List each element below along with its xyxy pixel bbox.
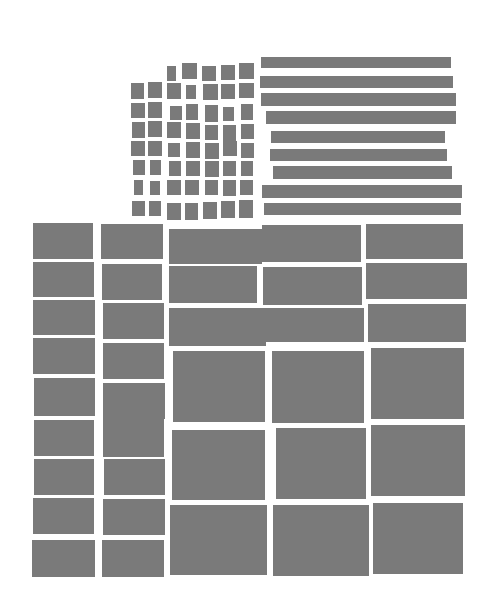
horizontal-bar xyxy=(262,185,462,198)
left-column-block xyxy=(33,498,94,534)
left-column-block xyxy=(103,343,164,379)
grid-block xyxy=(272,351,364,423)
grid-block xyxy=(368,304,466,342)
artwork-canvas xyxy=(0,0,491,607)
small-square xyxy=(241,161,253,176)
small-square xyxy=(186,142,200,158)
small-square xyxy=(185,203,198,220)
grid-block xyxy=(371,348,464,419)
left-column-block xyxy=(33,223,93,259)
small-square xyxy=(150,181,160,195)
horizontal-bar xyxy=(271,131,445,143)
left-column-block xyxy=(104,459,165,495)
small-square xyxy=(170,106,182,120)
left-column-block xyxy=(102,264,162,300)
small-square xyxy=(203,84,218,100)
small-square xyxy=(149,201,161,216)
small-square xyxy=(148,82,162,98)
small-square xyxy=(223,141,237,156)
small-square xyxy=(167,66,176,81)
small-square xyxy=(148,141,162,156)
left-column-block xyxy=(34,378,95,416)
small-square xyxy=(185,180,199,195)
left-column-block xyxy=(34,420,94,456)
horizontal-bar xyxy=(273,166,452,179)
small-square xyxy=(131,83,144,99)
grid-block xyxy=(169,266,257,303)
small-square xyxy=(241,124,254,139)
horizontal-bar xyxy=(264,203,461,215)
small-square xyxy=(223,180,236,196)
grid-block xyxy=(273,505,369,576)
small-square xyxy=(239,200,253,218)
left-column-block xyxy=(102,540,164,577)
small-square xyxy=(186,161,200,176)
horizontal-bar xyxy=(261,93,456,106)
horizontal-bar xyxy=(260,76,453,88)
small-square xyxy=(205,143,219,159)
left-column-block xyxy=(34,459,94,495)
grid-block xyxy=(169,308,266,346)
grid-block xyxy=(371,425,465,496)
left-column-block xyxy=(103,303,164,339)
small-square xyxy=(134,180,143,195)
grid-block xyxy=(172,430,265,500)
small-square xyxy=(167,203,181,220)
small-square xyxy=(132,201,145,216)
grid-block xyxy=(263,267,362,305)
small-square xyxy=(150,160,161,175)
small-square xyxy=(205,180,218,195)
left-column-block xyxy=(103,419,164,457)
grid-block xyxy=(366,263,467,299)
small-square xyxy=(182,63,197,79)
small-square xyxy=(221,84,235,99)
horizontal-bar xyxy=(261,57,451,68)
small-square xyxy=(221,201,235,218)
small-square xyxy=(131,141,145,156)
left-column-block xyxy=(103,383,165,419)
horizontal-bar xyxy=(270,149,447,161)
grid-block xyxy=(173,351,265,422)
left-column-block xyxy=(103,499,165,535)
small-square xyxy=(132,122,145,138)
small-square xyxy=(223,125,236,141)
left-column-block xyxy=(101,224,163,259)
small-square xyxy=(202,66,216,81)
small-square xyxy=(148,121,162,137)
small-square xyxy=(221,65,235,80)
small-square xyxy=(205,161,219,177)
small-square xyxy=(168,143,180,157)
grid-block xyxy=(373,503,463,574)
small-square xyxy=(133,160,145,175)
left-column-block xyxy=(32,540,95,577)
grid-block xyxy=(276,428,366,499)
small-square xyxy=(167,180,181,195)
grid-block xyxy=(170,505,267,575)
small-square xyxy=(167,83,181,99)
grid-block xyxy=(366,224,463,259)
grid-block xyxy=(262,225,361,262)
small-square xyxy=(240,180,253,195)
grid-block xyxy=(169,229,262,264)
left-column-block xyxy=(33,338,95,374)
small-square xyxy=(186,104,198,120)
small-square xyxy=(131,103,145,118)
small-square xyxy=(205,105,218,122)
small-square xyxy=(223,161,236,176)
small-square xyxy=(148,102,162,118)
small-square xyxy=(186,85,196,99)
grid-block xyxy=(263,308,364,342)
small-square xyxy=(205,125,218,140)
small-square xyxy=(223,107,234,121)
small-square xyxy=(239,83,254,98)
small-square xyxy=(241,143,254,158)
small-square xyxy=(241,104,253,120)
horizontal-bar xyxy=(266,111,456,124)
small-square xyxy=(169,161,181,176)
small-square xyxy=(239,63,254,79)
small-square xyxy=(203,202,217,219)
small-square xyxy=(167,122,181,138)
left-column-block xyxy=(33,300,95,335)
left-column-block xyxy=(33,262,94,297)
small-square xyxy=(186,123,200,139)
